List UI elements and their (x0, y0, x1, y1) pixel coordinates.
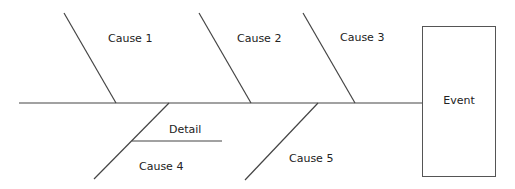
fishbone-diagram: Cause 1 Cause 2 Cause 3 Detail Cause 4 C… (0, 0, 515, 189)
cause-3-label: Cause 3 (340, 31, 384, 44)
cause-5-label: Cause 5 (289, 152, 333, 165)
event-label: Event (423, 94, 495, 107)
cause-1-label: Cause 1 (108, 32, 152, 45)
event-box: Event (422, 26, 496, 177)
detail-label: Detail (169, 123, 201, 136)
cause-2-label: Cause 2 (237, 32, 281, 45)
cause-5-bone (245, 103, 318, 180)
cause-1-bone (64, 13, 116, 103)
cause-3-bone (303, 13, 355, 103)
cause-2-bone (199, 13, 251, 103)
cause-4-label: Cause 4 (139, 160, 183, 173)
